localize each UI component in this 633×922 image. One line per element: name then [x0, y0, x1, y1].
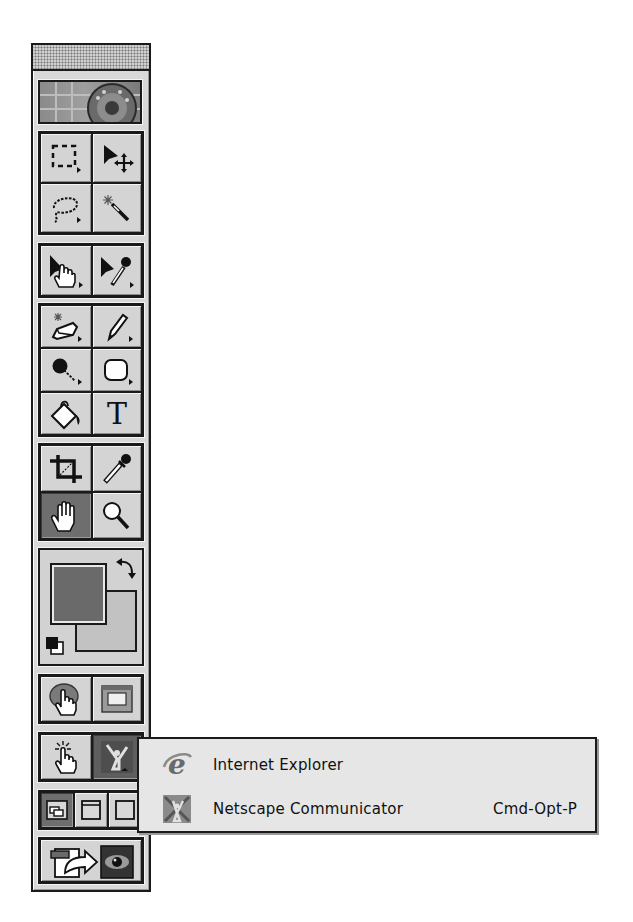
zoom-icon: [99, 500, 135, 532]
application-logo[interactable]: [38, 80, 142, 124]
magic-wand-icon: [100, 192, 134, 224]
crop-icon: [48, 453, 84, 485]
tool-magic-wand[interactable]: [92, 183, 142, 233]
eraser-icon: [48, 311, 84, 343]
view-tools-group: [38, 443, 144, 541]
tool-standard-screen-mode[interactable]: [40, 792, 74, 828]
menu-item-internet-explorer[interactable]: e Internet Explorer: [139, 745, 595, 785]
full-screen-menu-mode-icon: [79, 798, 103, 822]
menu-item-label: Internet Explorer: [213, 756, 343, 774]
tool-rounded-rectangle[interactable]: [92, 348, 142, 392]
tool-hand[interactable]: [40, 492, 92, 539]
netscape-communicator-icon: [161, 793, 193, 825]
tool-eraser[interactable]: [40, 305, 92, 348]
internet-explorer-icon: e: [161, 749, 193, 781]
netscape-browser-icon: [99, 739, 135, 775]
tool-zoom[interactable]: [92, 492, 142, 539]
tool-preview-hand[interactable]: [40, 734, 92, 780]
type-icon: T: [107, 399, 127, 429]
tool-paint-bucket[interactable]: [40, 392, 92, 435]
tool-image-map-visibility[interactable]: [92, 676, 142, 722]
tool-crop[interactable]: [40, 445, 92, 492]
pencil-icon: [99, 311, 135, 343]
rounded-rectangle-icon: [99, 354, 135, 386]
image-map-icon: [98, 682, 136, 716]
tool-rollover-hand[interactable]: [40, 676, 92, 722]
full-screen-mode-icon: [113, 798, 137, 822]
tool-jump-to-application[interactable]: [40, 839, 142, 882]
standard-screen-mode-icon: [45, 798, 69, 822]
tool-rectangular-marquee[interactable]: [40, 133, 92, 183]
rectangular-marquee-icon: [49, 142, 83, 174]
screen-mode-group: [38, 790, 144, 830]
tool-pencil[interactable]: [92, 305, 142, 348]
menu-item-label: Netscape Communicator: [213, 800, 403, 818]
tool-preview-in-browser[interactable]: [92, 734, 142, 780]
tool-lasso[interactable]: [40, 183, 92, 233]
menu-item-netscape-communicator[interactable]: Netscape Communicator Cmd-Opt-P: [139, 789, 595, 829]
tool-full-screen-menu-mode[interactable]: [74, 792, 108, 828]
logo-eye-icon: [40, 82, 140, 122]
tool-type[interactable]: T: [92, 392, 142, 435]
tool-move[interactable]: [92, 133, 142, 183]
tool-image-map-select[interactable]: [40, 245, 92, 296]
eyedropper-icon: [99, 453, 135, 485]
tool-brush[interactable]: [40, 348, 92, 392]
foreground-color-swatch[interactable]: [50, 563, 107, 625]
preview-group: [38, 732, 144, 782]
rollover-group: [38, 674, 144, 724]
preview-in-browser-menu: e Internet Explorer Netscape Communicato…: [137, 737, 597, 833]
swap-colors-icon[interactable]: [114, 557, 138, 583]
arrow-hand-icon: [47, 253, 85, 289]
hand-icon: [48, 499, 84, 533]
selection-arrow-tools-group: [38, 243, 144, 298]
preview-hand-icon: [47, 739, 85, 775]
jump-to-group: [38, 837, 144, 884]
arrow-eyedropper-icon: [98, 253, 136, 289]
paint-bucket-icon: [48, 398, 84, 430]
move-icon: [100, 142, 134, 174]
palette-drag-bar[interactable]: [33, 45, 149, 71]
lasso-icon: [49, 192, 83, 224]
tool-direct-select[interactable]: [92, 245, 142, 296]
jump-to-icon: [43, 841, 139, 881]
menu-item-shortcut: Cmd-Opt-P: [493, 800, 577, 818]
selection-tools-group: [38, 131, 144, 235]
brush-icon: [48, 354, 84, 386]
tool-eyedropper[interactable]: [92, 445, 142, 492]
default-colors-icon[interactable]: [45, 636, 67, 658]
painting-tools-group: T: [38, 303, 144, 437]
rollover-hand-icon: [47, 681, 85, 717]
